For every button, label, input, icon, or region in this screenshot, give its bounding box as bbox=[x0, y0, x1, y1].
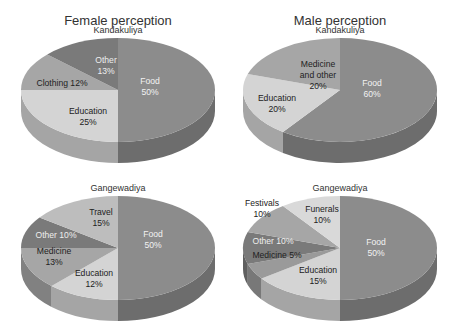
slice-label: Medicine 5% bbox=[252, 250, 302, 260]
pie-subtitle: Kandakuliya bbox=[93, 25, 142, 35]
pie-subtitle: Gangewadiya bbox=[312, 183, 367, 193]
pie-charts: KandakuliyaFood50%Education25%Clothing 1… bbox=[0, 0, 453, 330]
slice-label: Clothing 12% bbox=[36, 78, 87, 88]
pie-subtitle: Kandakuliya bbox=[315, 25, 364, 35]
slice-label: Other13% bbox=[95, 55, 117, 76]
slice-label: Travel15% bbox=[89, 207, 113, 228]
slice-label: Food50% bbox=[140, 76, 160, 97]
slice-label: Food60% bbox=[362, 78, 382, 99]
slice-label: Food50% bbox=[366, 237, 386, 258]
pie-male-gangewadiya: GangewadiyaFood50%Education15%Medicine 5… bbox=[243, 183, 437, 321]
pie-subtitle: Gangewadiya bbox=[90, 183, 145, 193]
slice-label: Food50% bbox=[143, 229, 163, 250]
slice-label: Other 10% bbox=[35, 230, 76, 240]
pie-female-kandakuliya: KandakuliyaFood50%Education25%Clothing 1… bbox=[21, 25, 215, 163]
slice-label: Other 10% bbox=[252, 236, 293, 246]
pie-female-gangewadiya: GangewadiyaFood50%Education12%Medicine13… bbox=[21, 183, 215, 321]
pie-male-kandakuliya: KandakuliyaFood60%Education20%Medicinean… bbox=[243, 25, 437, 163]
